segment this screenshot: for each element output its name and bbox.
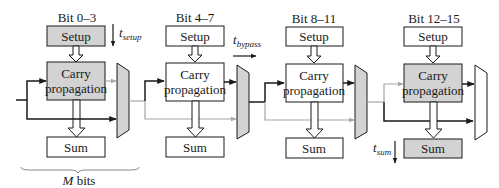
stage-label: Bit 12–15 bbox=[408, 11, 460, 26]
t-setup-label: tsetup bbox=[119, 25, 142, 42]
bypass-mux bbox=[355, 65, 367, 139]
bypass-wire bbox=[384, 102, 473, 121]
carry-wire bbox=[265, 83, 284, 102]
carry-label-line1: Carry bbox=[418, 68, 448, 83]
sum-label: Sum bbox=[183, 140, 207, 155]
hollow-arrow-icon bbox=[425, 102, 442, 138]
t-bypass-label: tbypass bbox=[233, 32, 262, 49]
hollow-arrow-icon bbox=[426, 46, 440, 63]
stage-label: Bit 4–7 bbox=[176, 10, 215, 25]
setup-label: Setup bbox=[299, 29, 329, 44]
sum-label: Sum bbox=[302, 141, 326, 156]
hollow-arrow-icon bbox=[188, 46, 202, 62]
carry-label-line2: propagation bbox=[283, 83, 346, 98]
hollow-arrow-icon bbox=[307, 46, 321, 63]
stage-1: Bit 4–7 Setup Carry propagation Sum tbyp… bbox=[164, 10, 262, 157]
carry-label-line2: propagation bbox=[164, 82, 227, 97]
carry-wire bbox=[384, 84, 403, 102]
setup-label: Setup bbox=[418, 29, 448, 44]
t-sum-label: tsum bbox=[373, 140, 392, 157]
m-bits-label: M bits bbox=[62, 173, 96, 188]
stage-label: Bit 0–3 bbox=[58, 10, 97, 25]
carry-label-line2: propagation bbox=[402, 83, 465, 98]
carry-wire bbox=[145, 81, 164, 101]
stage-0: Bit 0–3 Setup Carry propagation Sum tset… bbox=[16, 10, 142, 188]
setup-label: Setup bbox=[180, 29, 210, 44]
carry-label-line1: Carry bbox=[61, 66, 91, 81]
bypass-mux bbox=[475, 65, 487, 140]
stage-2: Bit 8–11 Setup Carry propagation Sum bbox=[283, 11, 367, 158]
bypass-wire bbox=[265, 102, 354, 120]
bypass-wire bbox=[27, 100, 116, 119]
carry-label-line2: propagation bbox=[45, 81, 108, 96]
carry-bypass-diagram: Bit 0–3 Setup Carry propagation Sum tset… bbox=[0, 0, 499, 188]
stage-label: Bit 8–11 bbox=[292, 11, 337, 26]
setup-label: Setup bbox=[61, 29, 91, 44]
bypass-mux bbox=[237, 65, 249, 139]
bypass-wire bbox=[145, 101, 236, 119]
sum-label: Sum bbox=[64, 140, 88, 155]
hollow-arrow-icon bbox=[69, 46, 83, 62]
sum-label: Sum bbox=[421, 141, 445, 156]
carry-label-line1: Carry bbox=[180, 67, 210, 82]
carry-label-line1: Carry bbox=[299, 68, 329, 83]
bypass-mux bbox=[117, 63, 129, 138]
carry-wire bbox=[27, 81, 46, 100]
stage-3: Bit 12–15 Setup Carry propagation Sum ts… bbox=[373, 11, 487, 163]
